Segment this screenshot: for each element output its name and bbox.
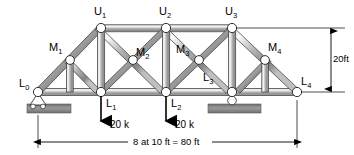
load-label-L1: 20 k bbox=[110, 119, 130, 130]
joint-label-L0: L0 bbox=[19, 77, 29, 92]
joint-L3 bbox=[227, 87, 236, 96]
joint-L4 bbox=[292, 87, 301, 96]
ground-bar-right bbox=[208, 104, 261, 113]
joint-M1 bbox=[66, 56, 75, 65]
joint-U1 bbox=[96, 23, 105, 32]
joint-label-L2: L2 bbox=[171, 97, 181, 112]
joint-label-M1: M1 bbox=[49, 41, 62, 56]
joint-label-L4: L4 bbox=[301, 75, 311, 90]
joint-M4 bbox=[261, 56, 270, 65]
joint-label-L1: L1 bbox=[106, 97, 116, 112]
ground-supports bbox=[27, 104, 261, 113]
member-vertical-U2-L2 bbox=[163, 28, 170, 92]
truss-members bbox=[37, 25, 299, 98]
dimension-height: 20ft bbox=[236, 28, 349, 92]
joint-label-M4: M4 bbox=[268, 41, 281, 56]
load-arrows: 20 k 20 k bbox=[101, 96, 195, 130]
joint-label-U3: U3 bbox=[225, 5, 237, 20]
truss-diagram: U1 U2 U3 M1 M2 M3 M4 L0 bbox=[0, 0, 354, 155]
load-label-L2: 20 k bbox=[175, 119, 195, 130]
joint-M3 bbox=[195, 56, 204, 65]
dimension-label-span: 8 at 10 ft = 80 ft bbox=[133, 136, 200, 147]
joint-U2 bbox=[161, 23, 170, 32]
joint-L1 bbox=[96, 87, 105, 96]
joint-L0 bbox=[33, 87, 42, 96]
joint-label-M3: M3 bbox=[176, 43, 189, 58]
joint-U3 bbox=[227, 23, 236, 32]
member-vertical-U3-L3 bbox=[229, 28, 236, 92]
joint-label-U2: U2 bbox=[159, 5, 171, 20]
member-vertical-U1-L1 bbox=[98, 28, 105, 92]
joint-label-U1: U1 bbox=[94, 5, 106, 20]
dimension-label-height: 20ft bbox=[333, 53, 349, 64]
joint-L2 bbox=[161, 87, 170, 96]
support-right bbox=[228, 96, 237, 105]
